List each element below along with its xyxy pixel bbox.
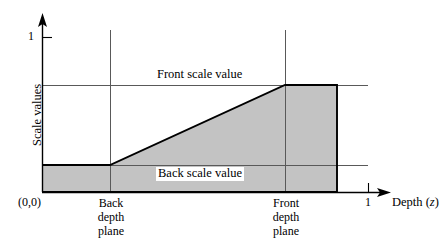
- front-scale-value-label: Front scale value: [157, 68, 242, 82]
- back-depth-plane-label: Back depth plane: [86, 196, 136, 238]
- front-depth-plane-label-line-1: Front: [261, 196, 311, 210]
- y-axis-title: Scale values: [30, 84, 45, 146]
- back-depth-plane-label-line-1: Back: [86, 196, 136, 210]
- front-depth-plane-label-line-3: plane: [261, 224, 311, 238]
- x-axis-title-close: ): [435, 195, 439, 209]
- x-axis-title: Depth (z): [392, 196, 439, 210]
- front-depth-plane-label-line-2: depth: [261, 210, 311, 224]
- origin-label: (0,0): [18, 196, 41, 209]
- back-scale-value-label: Back scale value: [156, 167, 244, 181]
- y-axis-tick-label-1: 1: [28, 30, 34, 43]
- front-depth-plane-label: Front depth plane: [261, 196, 311, 238]
- back-depth-plane-label-line-2: depth: [86, 210, 136, 224]
- x-axis-tick-label-1: 1: [365, 196, 371, 209]
- back-depth-plane-label-line-3: plane: [86, 224, 136, 238]
- depth-cueing-diagram: 1 Scale values (0,0) Front scale value B…: [0, 0, 445, 241]
- diagram-canvas: [0, 0, 445, 241]
- x-axis-title-text: Depth (: [392, 195, 430, 209]
